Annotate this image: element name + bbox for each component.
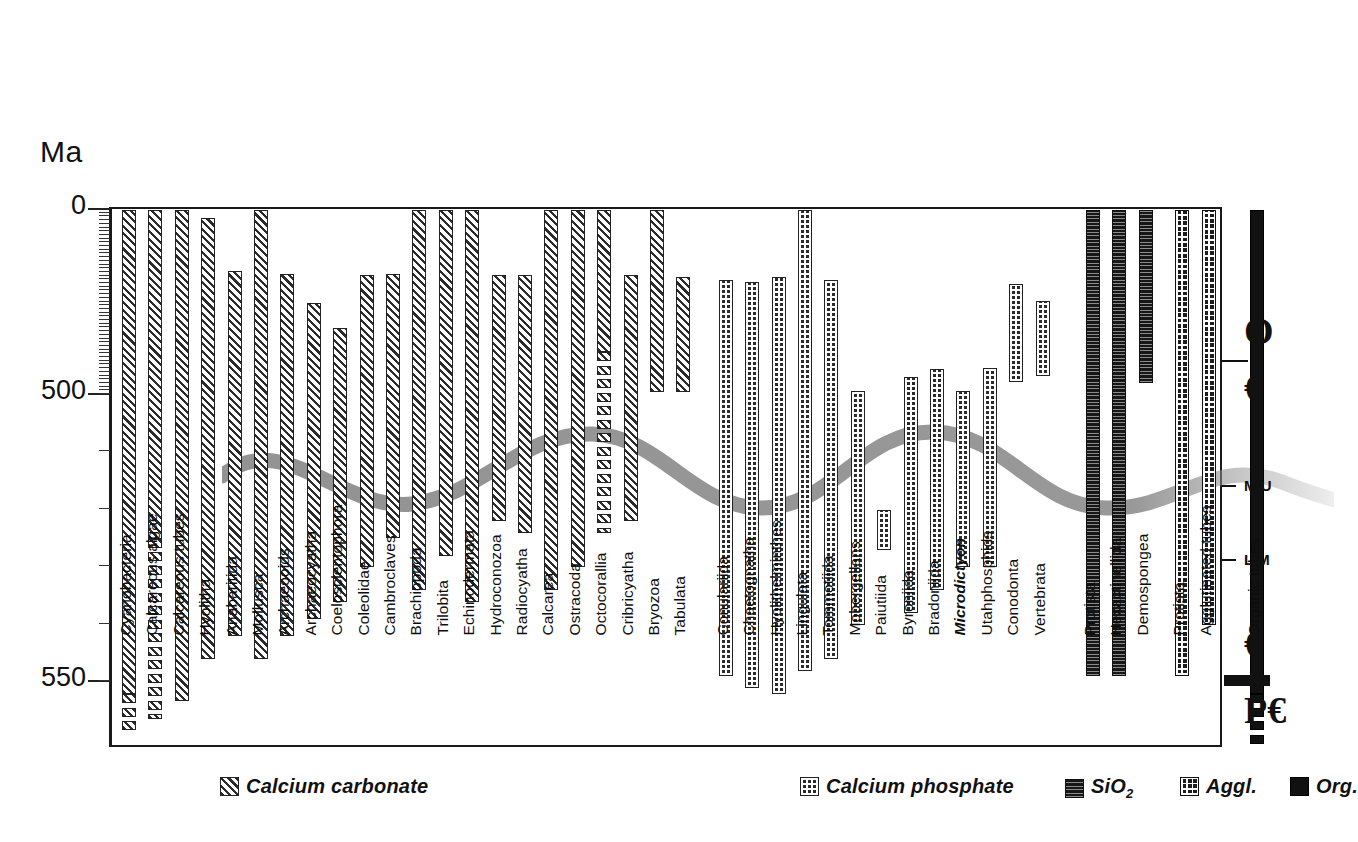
y-minor-tick <box>99 260 110 261</box>
y-minor-tick <box>99 278 110 279</box>
range-bar-segment <box>597 406 611 415</box>
column-label-paiutiida: Paiutiida <box>873 575 889 635</box>
y-minor-tick <box>99 371 110 372</box>
range-bar-segment <box>597 514 611 523</box>
column-label-calcarea: Calcarea <box>540 572 556 635</box>
legend-label-agglutinated: Aggl. <box>1206 775 1257 798</box>
y-minor-tick <box>99 389 110 390</box>
y-tick-0 <box>88 208 110 210</box>
range-bar <box>624 275 638 522</box>
column-label-archaeooids: Archaeooids <box>276 548 292 635</box>
range-bar-segment <box>122 708 136 717</box>
column-label-lingulata: Lingulata <box>794 571 810 635</box>
column-label-microdictyon: Microdictyon <box>952 537 968 635</box>
y-tick-label-550: 550 <box>8 664 86 691</box>
column-label-coleolidae: Coleolidae <box>355 561 371 635</box>
y-minor-tick <box>99 271 110 272</box>
y-minor-tick <box>99 623 110 624</box>
range-bar <box>1009 284 1023 382</box>
range-bar-segment <box>597 460 611 469</box>
column-label-tommotiida: Tommotiida <box>820 555 836 635</box>
y-minor-tick <box>99 304 110 305</box>
y-minor-tick <box>99 319 110 320</box>
column-label-hyolithelminthes: Hyolithelminthes <box>767 520 783 635</box>
y-minor-tick <box>99 289 110 290</box>
y-minor-tick <box>99 349 110 350</box>
legend-swatch-calcium-carbonate <box>220 777 239 796</box>
range-bar-segment <box>597 420 611 429</box>
range-bar <box>439 210 453 556</box>
legend-label-silica: SiO2 <box>1091 775 1134 801</box>
range-bar <box>412 210 426 590</box>
strat-band-boundary <box>1224 675 1270 686</box>
legend-swatch-silica <box>1065 779 1084 798</box>
range-bar-segment <box>597 366 611 375</box>
column-label-calcareous-algae: Calcareous algae <box>144 513 160 635</box>
column-label-hexactinellida: Hexactinellida <box>1108 537 1124 635</box>
column-label-hyolitha: Hyolitha <box>197 578 213 635</box>
column-label-tabulata: Tabulata <box>672 576 688 635</box>
column-label-byroniida: Byroniida <box>899 569 915 635</box>
y-minor-tick <box>99 375 110 376</box>
y-minor-tick <box>99 393 110 394</box>
legend-swatch-calcium-phosphate <box>800 777 819 796</box>
y-minor-tick <box>99 367 110 368</box>
y-minor-tick <box>99 219 110 220</box>
strat-label-mu: M/U <box>1244 478 1272 493</box>
column-label-demospongea: Demospongea <box>1134 533 1150 635</box>
legend-item-calcium-carbonate: Calcium carbonate <box>220 775 428 798</box>
legend-swatch-agglutinated <box>1180 777 1199 796</box>
y-minor-tick <box>99 360 110 361</box>
column-label-ostracoda: Ostracoda <box>566 563 582 635</box>
stratigraphic-column: O € M/U L/M € P€ <box>1222 207 1312 747</box>
range-bar <box>492 275 506 522</box>
legend: Calcium carbonateCalcium phosphateSiO2Ag… <box>110 775 1290 815</box>
column-label-protista: Protista <box>1171 582 1187 635</box>
legend-label-organic: Org. <box>1316 775 1358 798</box>
column-label-cambroclaves: Cambroclaves <box>382 535 398 635</box>
y-minor-tick <box>99 275 110 276</box>
y-minor-tick <box>99 363 110 364</box>
column-label-agglutinated-tubes: Agglutinated tubes <box>1197 505 1213 635</box>
column-label-coelosclentophora: Coelosclentophora <box>329 504 345 635</box>
range-bar <box>930 369 944 590</box>
range-bar-segment <box>597 528 611 533</box>
column-label-utahphosphids: Utahphosphids <box>978 530 994 635</box>
y-axis-unit-label: Ma <box>40 135 83 169</box>
range-bar <box>148 210 162 539</box>
column-label-cribricyatha: Cribricyatha <box>619 551 635 635</box>
range-bar <box>518 275 532 533</box>
range-bar <box>1036 301 1050 377</box>
legend-item-agglutinated: Aggl. <box>1180 775 1257 798</box>
y-minor-tick <box>99 326 110 327</box>
range-bar-segment <box>597 352 611 361</box>
y-minor-tick <box>99 282 110 283</box>
y-minor-tick <box>99 315 110 316</box>
y-minor-tick <box>99 680 110 681</box>
strat-tick-mu <box>1222 485 1236 487</box>
strat-label-precambrian: P€ <box>1244 691 1286 729</box>
y-minor-tick <box>99 330 110 331</box>
strat-label-cambrian-base: € <box>1244 625 1263 663</box>
range-bar-segment <box>597 474 611 483</box>
column-label-chaetognatha: Chaetognatha <box>741 536 757 635</box>
range-bar-segment <box>597 487 611 496</box>
y-minor-tick <box>99 234 110 235</box>
range-bar-segment <box>122 694 136 703</box>
y-minor-tick <box>99 264 110 265</box>
legend-label-calcium-phosphate: Calcium phosphate <box>826 775 1014 798</box>
column-label-protista: Protista <box>1082 582 1098 635</box>
column-label-bradoniida: Bradoniida <box>926 560 942 635</box>
column-label-calcareous-tubes: Calcareous tubes <box>170 513 186 635</box>
column-label-mobergellans: Mobergellans <box>846 541 862 635</box>
y-minor-tick <box>99 249 110 250</box>
column-label-vertebrata: Vertebrata <box>1031 562 1047 635</box>
range-bar <box>386 274 400 539</box>
plot-area <box>110 207 1222 747</box>
y-minor-tick <box>99 352 110 353</box>
range-bar-segment <box>122 721 136 730</box>
range-bar-segment <box>597 501 611 510</box>
y-minor-tick <box>99 297 110 298</box>
range-bar-segment <box>148 647 162 656</box>
